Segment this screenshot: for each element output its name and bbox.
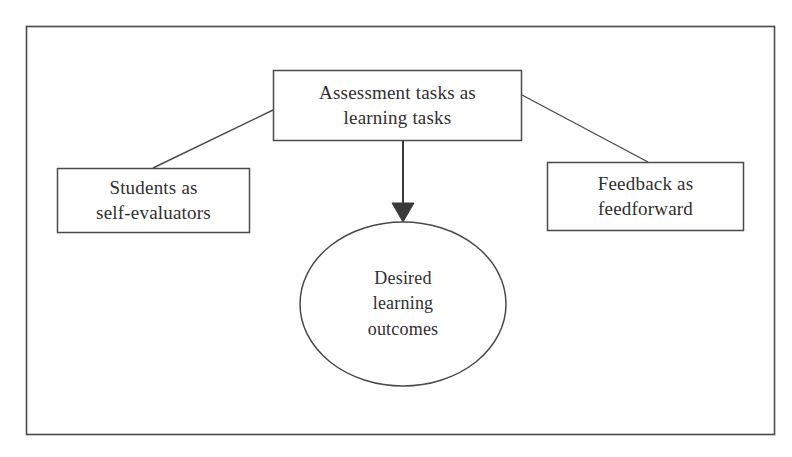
- node-box-assessment-tasks: [274, 71, 522, 141]
- diagram-canvas: Assessment tasks as learning tasks Stude…: [0, 0, 792, 457]
- diagram-vector-layer: [0, 0, 792, 457]
- arrowhead-icon: [392, 203, 414, 222]
- connector-top-to-right: [522, 95, 648, 162]
- node-ellipse-desired-learning-outcomes: [300, 222, 506, 386]
- node-box-feedback-feedforward: [548, 163, 744, 231]
- connector-top-to-left: [153, 110, 273, 168]
- node-box-students-self-evaluators: [58, 169, 250, 233]
